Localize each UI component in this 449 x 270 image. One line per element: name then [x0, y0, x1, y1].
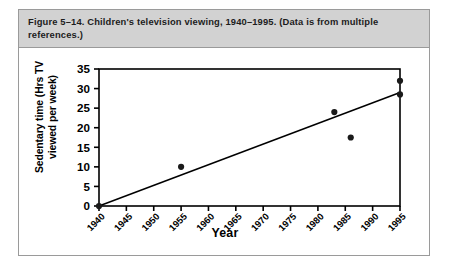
figure-caption-box: Figure 5–14. Children's television viewi… [18, 9, 430, 47]
y-axis-tick-label: 10 [77, 160, 90, 173]
y-axis-tick-label: 25 [77, 101, 90, 114]
y-axis-tick-label: 35 [77, 62, 90, 75]
data-point [348, 134, 354, 140]
plot-panel: Sedentary time (Hrs TV viewed per week) … [18, 47, 430, 256]
data-point [96, 203, 102, 209]
y-axis-tick-label: 15 [77, 141, 90, 154]
data-point [397, 78, 403, 84]
x-axis-title: Year [19, 226, 431, 240]
data-point [178, 164, 184, 170]
y-axis-tick-label: 5 [84, 180, 91, 193]
y-axis-tick-label: 30 [77, 82, 90, 95]
plot-frame [99, 69, 400, 206]
y-axis-tick-label: 20 [77, 121, 90, 134]
figure-container: Figure 5–14. Children's television viewi… [18, 9, 430, 256]
figure-caption-text: Figure 5–14. Children's television viewi… [28, 16, 420, 41]
y-axis-tick-label: 0 [84, 199, 90, 212]
data-point [331, 109, 337, 115]
data-point [397, 91, 403, 97]
